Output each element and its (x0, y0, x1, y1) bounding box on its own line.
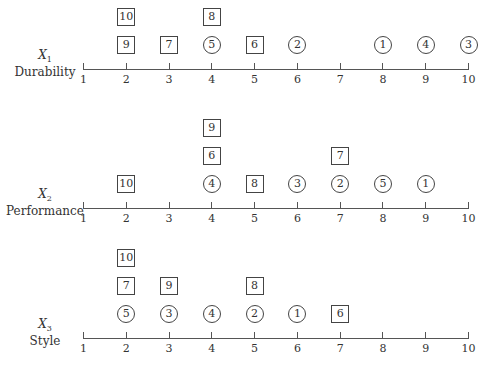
x-tick-label: 2 (116, 342, 136, 355)
x-tick (126, 202, 127, 208)
x-tick-label: 6 (287, 73, 307, 86)
x-tick (340, 63, 341, 69)
circle-marker: 3 (288, 175, 306, 193)
square-marker: 9 (160, 277, 178, 295)
circle-marker: 4 (203, 305, 221, 323)
square-marker: 9 (117, 36, 135, 54)
x-tick (254, 332, 255, 338)
x-tick (382, 332, 383, 338)
circle-marker: 5 (117, 305, 135, 323)
x-tick (126, 332, 127, 338)
x-tick (297, 63, 298, 69)
circle-marker: 4 (203, 175, 221, 193)
x-axis-line (83, 69, 469, 70)
circle-marker: 3 (160, 305, 178, 323)
x-tick (254, 63, 255, 69)
circle-marker: 1 (417, 175, 435, 193)
x-axis-line (83, 338, 469, 339)
x-tick (169, 202, 170, 208)
x-tick (468, 202, 469, 208)
x-tick-label: 8 (373, 342, 393, 355)
x-tick (297, 332, 298, 338)
x-tick-label: 9 (416, 342, 436, 355)
x-tick (297, 202, 298, 208)
x-tick-label: 4 (202, 73, 222, 86)
x-tick (340, 202, 341, 208)
square-marker: 6 (331, 305, 349, 323)
square-marker: 6 (203, 147, 221, 165)
x-tick (382, 63, 383, 69)
variable-name: Durability (14, 65, 75, 79)
x-tick-label: 4 (202, 212, 222, 225)
x-tick (169, 332, 170, 338)
circle-marker: 1 (288, 305, 306, 323)
x-tick-label: 7 (330, 342, 350, 355)
circle-marker: 4 (417, 36, 435, 54)
square-marker: 6 (246, 36, 264, 54)
variable-symbol: X2 (38, 187, 52, 201)
x-tick-label: 3 (159, 342, 179, 355)
x-tick-label: 6 (287, 342, 307, 355)
square-marker: 8 (246, 277, 264, 295)
circle-marker: 2 (288, 36, 306, 54)
x-tick-label: 5 (245, 342, 265, 355)
square-marker: 10 (117, 8, 135, 26)
x-tick-label: 3 (159, 73, 179, 86)
panel-label: X3Style (5, 318, 85, 348)
x-tick (126, 63, 127, 69)
square-marker: 7 (160, 36, 178, 54)
x-tick-label: 8 (373, 73, 393, 86)
panel-label: X2Performance (5, 188, 85, 218)
x-tick-label: 4 (202, 342, 222, 355)
square-marker: 9 (203, 119, 221, 137)
x-tick-label: 5 (245, 73, 265, 86)
x-tick (425, 202, 426, 208)
circle-marker: 2 (246, 305, 264, 323)
x-tick (254, 202, 255, 208)
square-marker: 10 (117, 175, 135, 193)
variable-symbol: X1 (38, 48, 52, 62)
x-tick (211, 332, 212, 338)
x-tick-label: 7 (330, 73, 350, 86)
x-tick-label: 8 (373, 212, 393, 225)
x-tick-label: 9 (416, 73, 436, 86)
circle-marker: 3 (460, 36, 478, 54)
x-tick-label: 2 (116, 73, 136, 86)
x-tick (340, 332, 341, 338)
variable-symbol: X3 (38, 317, 52, 331)
x-tick-label: 10 (459, 342, 479, 355)
x-tick (425, 332, 426, 338)
square-marker: 8 (246, 175, 264, 193)
x-tick (211, 63, 212, 69)
x-tick-label: 3 (159, 212, 179, 225)
x-tick (211, 202, 212, 208)
x-tick (425, 63, 426, 69)
circle-marker: 1 (374, 36, 392, 54)
square-marker: 7 (331, 147, 349, 165)
variable-name: Performance (6, 204, 84, 218)
x-axis-line (83, 208, 469, 209)
x-tick-label: 7 (330, 212, 350, 225)
x-tick (468, 332, 469, 338)
x-tick (169, 63, 170, 69)
circle-marker: 2 (331, 175, 349, 193)
x-tick (382, 202, 383, 208)
circle-marker: 5 (374, 175, 392, 193)
x-tick-label: 2 (116, 212, 136, 225)
x-tick-label: 10 (459, 212, 479, 225)
variable-name: Style (30, 334, 61, 348)
x-tick (468, 63, 469, 69)
square-marker: 7 (117, 277, 135, 295)
square-marker: 10 (117, 249, 135, 267)
square-marker: 8 (203, 8, 221, 26)
circle-marker: 5 (203, 36, 221, 54)
x-tick-label: 6 (287, 212, 307, 225)
x-tick-label: 9 (416, 212, 436, 225)
panel-label: X1Durability (5, 49, 85, 79)
x-tick-label: 10 (459, 73, 479, 86)
x-tick-label: 5 (245, 212, 265, 225)
